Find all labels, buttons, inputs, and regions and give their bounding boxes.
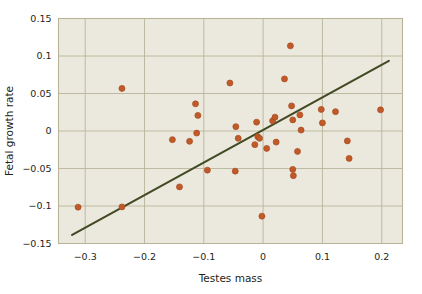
y-axis-tick-label: 0 [45, 125, 51, 136]
y-axis-tick-label: 0.15 [30, 13, 51, 24]
data-point [194, 130, 200, 136]
data-point [204, 167, 210, 173]
data-point [257, 135, 263, 141]
x-axis-tick-label: −0.1 [192, 251, 215, 262]
y-axis-tick-label: −0.15 [22, 238, 51, 249]
x-axis-tick-label: 0.2 [374, 251, 389, 262]
scatter-plot-figure: −0.3−0.2−0.100.10.2−0.15−0.1−0.0500.050.… [0, 0, 422, 294]
data-point [318, 106, 324, 112]
data-point [169, 137, 175, 143]
data-point [290, 166, 296, 172]
data-point [176, 184, 182, 190]
data-point [344, 138, 350, 144]
data-point [232, 168, 238, 174]
data-point [297, 112, 303, 118]
data-point [289, 103, 295, 109]
plot-canvas: −0.3−0.2−0.100.10.2−0.15−0.1−0.0500.050.… [0, 0, 422, 294]
data-point [272, 114, 278, 120]
data-point [119, 85, 125, 91]
data-point [290, 173, 296, 179]
x-axis-tick-label: −0.2 [133, 251, 156, 262]
data-point [290, 117, 296, 123]
x-axis-tick-label: −0.3 [74, 251, 97, 262]
y-axis-tick-label: −0.1 [28, 200, 51, 211]
data-point [75, 204, 81, 210]
data-point [187, 138, 193, 144]
data-point [119, 204, 125, 210]
data-point [281, 76, 287, 82]
data-point [259, 213, 265, 219]
y-axis-tick-label: −0.05 [22, 163, 51, 174]
data-point [254, 119, 260, 125]
y-axis-title: Fetal growth rate [3, 86, 15, 176]
data-point [195, 112, 201, 118]
data-point [295, 148, 301, 154]
data-point [298, 127, 304, 133]
data-point [252, 142, 258, 148]
y-axis-tick-label: 0.1 [36, 50, 51, 61]
data-point [227, 80, 233, 86]
data-point [273, 139, 279, 145]
data-point [287, 43, 293, 49]
data-point [378, 107, 384, 113]
y-axis-tick-label: 0.05 [30, 88, 51, 99]
x-axis-title: Testes mass [198, 272, 263, 284]
x-axis-tick-label: 0.1 [315, 251, 330, 262]
data-point [233, 124, 239, 130]
x-axis-tick-label: 0 [260, 251, 266, 262]
data-point [235, 135, 241, 141]
data-point [319, 120, 325, 126]
data-point [332, 109, 338, 115]
data-point [264, 145, 270, 151]
data-point [346, 155, 352, 161]
data-point [193, 101, 199, 107]
